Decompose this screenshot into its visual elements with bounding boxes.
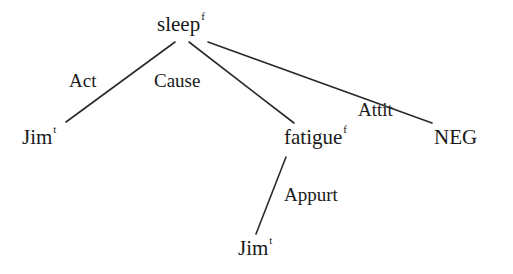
node-label: Jim: [22, 125, 52, 149]
node-superscript: t: [269, 234, 272, 246]
node-superscript: t: [53, 123, 56, 135]
node-superscript: f: [201, 10, 205, 22]
node-label: NEG: [434, 125, 477, 149]
edge-label-appurt: Appurt: [284, 185, 338, 204]
node-label: Jim: [238, 236, 268, 260]
node-jim-actor: Jimt: [22, 127, 56, 148]
node-label: fatigue: [284, 125, 342, 149]
node-fatigue: fatiguef: [284, 127, 347, 148]
node-neg: NEG: [434, 127, 477, 148]
node-sleep: sleepf: [157, 14, 205, 35]
edge-appurt: [256, 157, 286, 234]
node-superscript: f: [343, 123, 347, 135]
edge-label-attit: Attit: [358, 100, 393, 119]
node-jim-appurt: Jimt: [238, 238, 272, 259]
node-label: sleep: [157, 12, 200, 36]
edge-label-cause: Cause: [154, 71, 200, 90]
edge-label-act: Act: [69, 71, 96, 90]
